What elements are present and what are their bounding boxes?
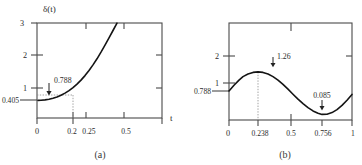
x-axis-ticks-top-a (86, 23, 124, 29)
y-ticklabel-b-2: 2 (215, 52, 219, 61)
y-ticklabel-b-1: 1 (215, 79, 219, 88)
annotation-arrow-0085-b (320, 100, 325, 110)
chart-a-svg: δ(t) t 3 2 1 0.405 0 0.2 0.25 0.5 0.788 … (0, 0, 181, 165)
x-ticklabel-b-4: 1 (351, 129, 355, 138)
chart-b-svg: 2 1 0.788 0 0.238 0.5 0.756 1 1.26 0.085… (181, 0, 362, 165)
annotation-label-126-b: 1.26 (277, 52, 291, 61)
annotation-arrow-126-b (271, 57, 276, 67)
annotation-label-0788-a: 0.788 (54, 76, 72, 85)
chart-panel-a: δ(t) t 3 2 1 0.405 0 0.2 0.25 0.5 0.788 … (0, 0, 181, 165)
x-ticklabel-b-0: 0 (226, 129, 230, 138)
y-ticklabel-a-3: 3 (20, 19, 24, 28)
x-ticklabel-b-3: 0.756 (314, 129, 331, 138)
annotation-arrow-0788-a (46, 83, 51, 95)
y-axis-label-a: δ(t) (43, 4, 56, 14)
x-ticklabel-a-3: 0.5 (121, 127, 131, 136)
panel-caption-b: (b) (279, 149, 291, 161)
plot-frame-a (37, 23, 162, 118)
data-curve-b (229, 72, 352, 115)
plot-frame-b (229, 23, 352, 120)
y-ticklabel-a-0: 0.405 (2, 96, 19, 105)
panel-caption-a: (a) (94, 149, 105, 161)
x-ticklabel-b-2: 0.5 (286, 129, 296, 138)
y-ticklabel-a-1: 1 (23, 84, 27, 93)
y-ticklabel-b-0: 0.788 (194, 87, 211, 96)
annotation-label-0085-b: 0.085 (313, 91, 331, 100)
x-ticklabel-a-1: 0.2 (67, 127, 77, 136)
x-ticklabel-a-2: 0.25 (82, 127, 95, 136)
chart-panel-b: 2 1 0.788 0 0.238 0.5 0.756 1 1.26 0.085… (181, 0, 362, 165)
x-ticklabel-a-0: 0 (35, 127, 39, 136)
x-ticklabel-b-1: 0.238 (251, 129, 268, 138)
data-curve-a (38, 23, 117, 100)
y-ticklabel-a-2: 2 (23, 51, 27, 60)
x-axis-label-a: t (170, 113, 173, 123)
guide-lines-a (37, 95, 73, 118)
figure-container: δ(t) t 3 2 1 0.405 0 0.2 0.25 0.5 0.788 … (0, 0, 362, 165)
y-axis-ticks-right-a (156, 55, 162, 88)
